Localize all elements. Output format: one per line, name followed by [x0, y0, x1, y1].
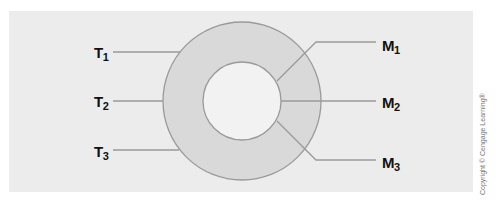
copyright-notice: Copyright © Cengage Learning®	[479, 93, 486, 195]
inner-circle	[203, 62, 281, 140]
label-t1: T1	[94, 45, 108, 63]
label-t2: T2	[94, 94, 108, 112]
label-t3: T3	[94, 144, 108, 162]
ring-diagram	[0, 0, 500, 205]
label-m1: M1	[382, 38, 400, 56]
label-m2: M2	[382, 95, 400, 113]
label-m3: M3	[382, 155, 400, 173]
